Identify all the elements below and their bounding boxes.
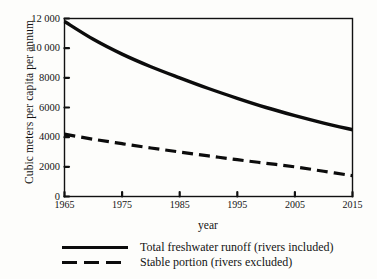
y-tick-label: 4000 xyxy=(39,131,60,142)
legend-label-total-runoff: Total freshwater runoff (rivers included… xyxy=(140,240,334,255)
x-tick-label: 1965 xyxy=(45,199,85,210)
x-axis-label: year xyxy=(64,219,352,231)
legend-solid-line-icon xyxy=(62,242,128,254)
series-line-total-runoff xyxy=(65,21,353,129)
y-tick-label: 2000 xyxy=(39,161,60,172)
series-lines xyxy=(65,21,353,175)
x-tick-label: 1975 xyxy=(102,199,142,210)
legend-dashed-line-icon xyxy=(62,257,128,269)
x-tick-label: 2015 xyxy=(333,199,373,210)
x-tick-label: 1995 xyxy=(217,199,257,210)
series-line-stable-portion xyxy=(65,134,353,176)
legend-item-total-runoff: Total freshwater runoff (rivers included… xyxy=(62,240,334,255)
y-tick-label: 8000 xyxy=(39,72,60,83)
x-tick-label: 2005 xyxy=(275,199,315,210)
legend-label-stable-portion: Stable portion (rivers excluded) xyxy=(140,255,292,270)
y-tick-label: 12 000 xyxy=(31,13,60,24)
chart-legend: Total freshwater runoff (rivers included… xyxy=(0,240,377,274)
y-tick-label: 10 000 xyxy=(31,42,60,53)
chart-figure: Cubic meters per capita per annum 020004… xyxy=(0,0,377,279)
legend-item-stable-portion: Stable portion (rivers excluded) xyxy=(62,255,292,270)
y-tick-label: 6000 xyxy=(39,102,60,113)
x-tick-label: 1985 xyxy=(160,199,200,210)
